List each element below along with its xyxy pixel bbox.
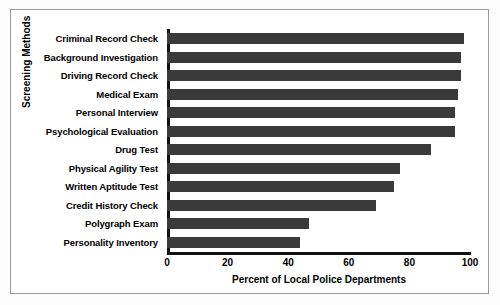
y-axis-title: Screening Methods [21,16,32,108]
x-axis-tick-label: 20 [222,257,233,268]
bar-row [167,86,470,105]
bar-row [167,67,470,86]
x-axis-title: Percent of Local Police Departments [167,274,471,285]
bar [167,144,431,155]
bar-row [167,178,470,197]
x-axis-tick-label: 0 [164,257,170,268]
bar-row [167,49,470,68]
y-axis-tick-label: Personality Inventory [63,234,158,253]
bar [167,107,455,118]
bar [167,52,461,63]
bar [167,163,400,174]
chart-figure: Criminal Record CheckBackground Investig… [0,0,500,305]
y-axis-tick-label: Psychological Evaluation [46,123,158,142]
y-axis-tick-label: Medical Exam [96,86,158,105]
bar-row [167,160,470,179]
bar [167,218,309,229]
bar [167,200,376,211]
bar-row [167,197,470,216]
y-axis-tick-label: Credit History Check [66,197,158,216]
bar [167,126,455,137]
bar [167,181,394,192]
bar [167,70,461,81]
plot-area [167,30,470,252]
y-axis-tick-label: Driving Record Check [61,67,158,86]
x-axis-tick-label: 40 [283,257,294,268]
y-axis-tick-label: Personal Interview [76,104,158,123]
x-axis-tick-label: 60 [343,257,354,268]
bar-row [167,30,470,49]
y-axis-tick-label: Written Aptitude Test [65,178,158,197]
bar [167,89,458,100]
bar-row [167,123,470,142]
bar-row [167,104,470,123]
bar [167,33,464,44]
bar-row [167,234,470,253]
bar [167,237,300,248]
y-axis-tick-label: Drug Test [115,141,158,160]
y-axis-tick-label: Background Investigation [44,49,158,68]
y-axis-tick-label: Criminal Record Check [56,30,158,49]
x-axis-line [167,252,471,255]
bar-row [167,141,470,160]
x-axis-tick-label: 100 [462,257,479,268]
y-axis-tick-label: Physical Agility Test [69,160,158,179]
x-axis-tick-label: 80 [404,257,415,268]
bar-row [167,215,470,234]
y-axis-tick-label: Polygraph Exam [85,215,158,234]
x-axis-tick-labels: 020406080100 [167,257,471,271]
